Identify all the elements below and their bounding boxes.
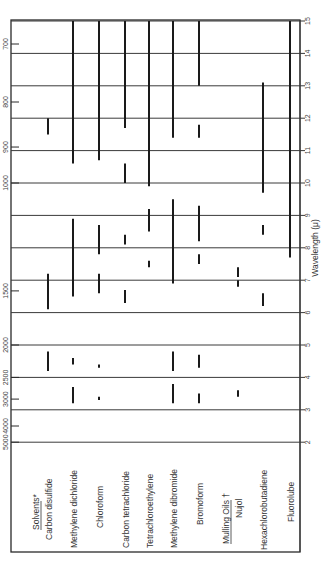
- row-label: Bromoform: [195, 483, 205, 525]
- wavelength-tick-label: 7: [304, 278, 311, 282]
- absorption-bars: [48, 21, 290, 403]
- row-label: Methylene dibromide: [169, 469, 179, 548]
- row-label: Tetrachloroethylene: [145, 474, 155, 548]
- wavenumber-tick-label: 800: [2, 96, 9, 108]
- wavenumber-tick-label: 700: [2, 38, 9, 50]
- wavelength-tick-label: 4: [304, 375, 311, 379]
- wavelength-tick-label: 14: [304, 49, 311, 57]
- wavelength-tick-label: 2: [304, 440, 311, 444]
- chart-frame: [11, 20, 300, 552]
- wavenumber-tick-label: 5000: [2, 434, 9, 450]
- wavelength-tick-label: 12: [304, 114, 311, 122]
- wavelength-tick-label: 5: [304, 343, 311, 347]
- wavenumber-tick-label: 2500: [2, 370, 9, 386]
- wavenumber-tick-label: 900: [2, 141, 9, 153]
- row-labels: Carbon disulfideMethylene dichlorideChlo…: [44, 469, 296, 550]
- row-label: Hexachlorobutadiene: [259, 469, 269, 550]
- mulling-heading: Mulling Oils †: [221, 493, 231, 544]
- row-label: Methylene dichloride: [69, 470, 79, 548]
- wavelength-tick-label: 3: [304, 408, 311, 412]
- row-label: Carbon disulfide: [44, 478, 54, 540]
- wavelength-tick-label: 6: [304, 311, 311, 315]
- row-label: Nujol: [234, 499, 244, 518]
- row-label: Fluorolube: [286, 482, 296, 522]
- wavelength-tick-label: 10: [304, 179, 311, 187]
- wavenumber-tick-label: 3000: [2, 391, 9, 407]
- axis-title: Wavelength (μ): [310, 219, 320, 277]
- wavelength-tick-label: 11: [304, 147, 311, 154]
- wavelength-tick-label: 15: [304, 17, 311, 25]
- wavelength-tick-label: 9: [304, 213, 311, 217]
- solvent-absorption-chart: 23456789101112131415 5000400030002500200…: [0, 0, 331, 572]
- solvents-heading: Solvents*: [31, 493, 41, 530]
- wavenumber-tick-label: 1500: [2, 283, 9, 299]
- wavenumber-tick-label: 2000: [2, 337, 9, 353]
- wavelength-tick-label: 13: [304, 82, 311, 90]
- grid-lines: [11, 21, 305, 442]
- wavenumber-tick-label: 1000: [2, 175, 9, 191]
- row-label: Carbon tetrachloride: [121, 471, 131, 548]
- row-label: Chloroform: [95, 486, 105, 528]
- wavenumber-tick-label: 4000: [2, 418, 9, 434]
